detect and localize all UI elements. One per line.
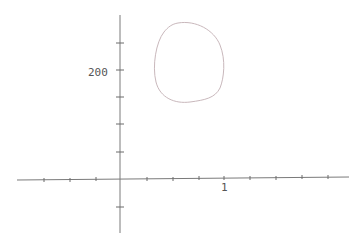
y-tick-label-200: 200 — [88, 66, 108, 79]
x-axis — [17, 177, 349, 180]
closed-curve — [154, 22, 223, 102]
plot-svg: 200 1 — [0, 0, 359, 246]
chart-canvas: 200 1 — [0, 0, 359, 246]
x-tick-label-1: 1 — [221, 181, 228, 194]
